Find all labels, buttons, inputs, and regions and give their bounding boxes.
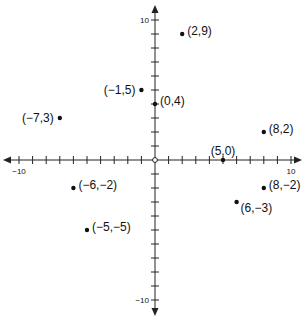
data-point-label: (−5,−5)	[92, 220, 131, 234]
y-axis-down-arrow-icon	[152, 308, 159, 316]
data-point	[85, 228, 89, 232]
data-point	[262, 186, 266, 190]
coordinate-plane: −101010−10 (2,9)(−1,5)(0,4)(−7,3)(8,2)(5…	[0, 0, 303, 320]
data-point	[58, 116, 62, 120]
data-point	[221, 158, 225, 162]
x-tick-label: 10	[287, 167, 296, 176]
y-tick-label: 10	[140, 16, 149, 25]
x-tick-label: −10	[12, 167, 26, 176]
data-point-label: (5,0)	[211, 144, 236, 158]
data-point	[234, 200, 238, 204]
data-point	[180, 32, 184, 36]
data-point-label: (−1,5)	[104, 83, 136, 97]
data-point-label: (6,−3)	[241, 201, 273, 215]
y-axis-up-arrow-icon	[152, 5, 159, 13]
origin-marker	[153, 158, 158, 163]
data-point	[153, 102, 157, 106]
data-point-label: (8,−2)	[269, 178, 301, 192]
data-point-label: (8,2)	[269, 122, 294, 136]
data-point-label: (−6,−2)	[78, 178, 117, 192]
x-axis-right-arrow-icon	[294, 157, 302, 164]
data-point-label: (2,9)	[187, 24, 212, 38]
data-point	[139, 88, 143, 92]
data-point-label: (0,4)	[160, 94, 185, 108]
y-tick-label: −10	[135, 296, 149, 305]
data-point	[71, 186, 75, 190]
x-axis-left-arrow-icon	[3, 157, 11, 164]
data-point-label: (−7,3)	[22, 111, 54, 125]
axes	[3, 5, 302, 316]
data-point	[262, 130, 266, 134]
data-points: (2,9)(−1,5)(0,4)(−7,3)(8,2)(5,0)(−6,−2)(…	[22, 24, 300, 234]
